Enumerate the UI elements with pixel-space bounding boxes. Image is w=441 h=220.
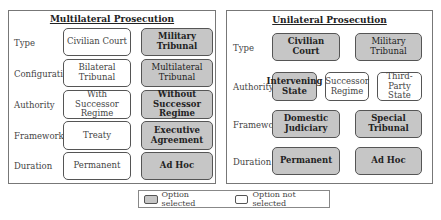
- left-config-multilateral: Multilateral Tribunal: [141, 59, 213, 87]
- right-label-duration: Duration: [233, 157, 271, 167]
- unselected-swatch-icon: [235, 195, 249, 204]
- legend-not-selected-label: Option not selected: [252, 190, 329, 208]
- legend-selected-label: Option selected: [162, 190, 223, 208]
- right-framework-domestic: Domestic Judiciary: [272, 110, 340, 138]
- right-authority-third-party: Third-Party State: [377, 72, 422, 101]
- right-duration-permanent: Permanent: [272, 147, 340, 175]
- right-authority-intervening: Intervening State: [272, 72, 317, 101]
- right-framework-special: Special Tribunal: [355, 110, 422, 138]
- left-authority-without-successor: Without Successor Regime: [141, 90, 213, 119]
- left-label-authority: Authority: [14, 100, 55, 110]
- left-type-civilian-court: Civilian Court: [63, 28, 131, 56]
- unilateral-title: Unilateral Prosecution: [227, 15, 432, 25]
- right-type-military-tribunal: Military Tribunal: [355, 33, 422, 61]
- left-duration-adhoc: Ad Hoc: [141, 152, 213, 180]
- right-duration-adhoc: Ad Hoc: [355, 147, 422, 175]
- left-config-bilateral: Bilateral Tribunal: [63, 59, 131, 87]
- left-type-military-tribunal: Military Tribunal: [141, 28, 213, 56]
- left-label-framework: Framework: [14, 131, 64, 141]
- left-label-duration: Duration: [14, 161, 52, 171]
- legend: Option selected Option not selected: [138, 190, 330, 208]
- left-duration-permanent: Permanent: [63, 152, 131, 180]
- right-authority-successor: Successor Regime: [325, 72, 369, 101]
- left-framework-executive: Executive Agreement: [141, 121, 213, 150]
- multilateral-title: Multilateral Prosecution: [9, 14, 215, 24]
- right-label-type: Type: [233, 43, 254, 53]
- left-authority-with-successor: With Successor Regime: [63, 90, 131, 119]
- right-type-civilian-court: Civilian Court: [272, 33, 340, 61]
- left-label-type: Type: [14, 38, 35, 48]
- selected-swatch-icon: [144, 195, 158, 204]
- left-framework-treaty: Treaty: [63, 121, 131, 150]
